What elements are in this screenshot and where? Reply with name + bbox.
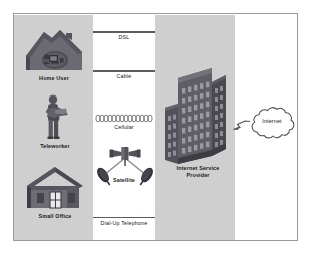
cable-link-label: Cable — [93, 73, 155, 80]
small-office-label: Small Office — [24, 213, 86, 220]
internet-label: Internet — [246, 118, 298, 125]
satellite-link-label: Satellite — [93, 177, 155, 184]
teleworker-label: Teleworker — [32, 143, 78, 150]
home-user-label: Home User — [22, 75, 86, 82]
cellular-coil-icon — [94, 114, 154, 123]
isp-label: Internet Service Provider — [160, 165, 236, 178]
house-with-computer-icon — [22, 26, 86, 74]
cellular-link-label: Cellular — [93, 124, 155, 131]
diagram-frame: Home User Teleworker — [13, 13, 298, 241]
dialup-link-label: Dial-Up Telephone — [88, 220, 160, 227]
dialup-link-line — [93, 217, 155, 218]
person-with-laptop-icon — [40, 94, 70, 142]
small-office-building-icon — [24, 164, 86, 212]
dsl-link-line — [93, 31, 155, 33]
cable-link-line — [93, 70, 155, 72]
dsl-link-label: DSL — [93, 34, 155, 41]
office-tower-icon — [162, 66, 234, 164]
